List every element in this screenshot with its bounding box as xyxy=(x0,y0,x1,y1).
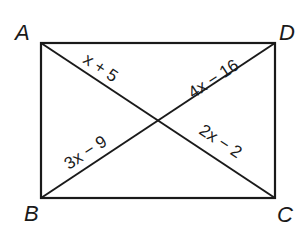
vertex-label-a: A xyxy=(13,20,30,45)
vertex-label-c: C xyxy=(277,202,293,227)
segment-label-ed: 4x − 16 xyxy=(185,55,242,102)
segment-label-be: 3x − 9 xyxy=(61,132,111,174)
vertex-label-b: B xyxy=(24,201,39,226)
rectangle-diagram: A D B C x + 5 4x − 16 3x − 9 2x − 2 xyxy=(0,0,307,232)
segment-label-ec: 2x − 2 xyxy=(196,120,246,162)
segment-label-ae: x + 5 xyxy=(80,49,122,85)
vertex-label-d: D xyxy=(279,20,295,45)
